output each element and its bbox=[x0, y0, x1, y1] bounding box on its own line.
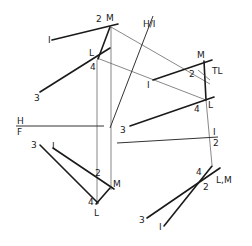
label-top-1: I bbox=[48, 35, 51, 45]
label-aux-1: I bbox=[147, 80, 150, 90]
label-front-3: 3 bbox=[31, 140, 37, 150]
label-aux-l: L bbox=[208, 100, 213, 110]
top-view bbox=[40, 24, 118, 92]
label-top-l: L bbox=[89, 48, 94, 58]
label-true-length: TL bbox=[211, 66, 223, 76]
label-point-4: 4 bbox=[196, 167, 202, 177]
label-hinge-h-1: H/I bbox=[143, 19, 155, 29]
hinge-line-1-2 bbox=[117, 137, 218, 143]
label-top-4: 4 bbox=[90, 62, 96, 72]
label-aux-3: 3 bbox=[120, 125, 126, 135]
label-hinge-f: F bbox=[17, 127, 22, 137]
label-point-2: 2 bbox=[203, 182, 209, 192]
hinge-line-h-1 bbox=[110, 16, 153, 128]
label-aux-m: M bbox=[197, 50, 205, 60]
descriptive-geometry-diagram: I 2 M L 4 3 H/I H F M 2 I L 4 3 TL I 2 3… bbox=[0, 0, 252, 246]
label-aux-4: 4 bbox=[194, 104, 200, 114]
label-top-2: 2 bbox=[96, 14, 102, 24]
label-hinge-h: H bbox=[17, 116, 24, 126]
label-front-1: I bbox=[52, 141, 55, 151]
label-top-m: M bbox=[106, 13, 114, 23]
label-front-m: M bbox=[113, 179, 121, 189]
label-front-l: L bbox=[94, 208, 99, 218]
label-aux-2: 2 bbox=[189, 69, 195, 79]
label-point-3: 3 bbox=[139, 215, 145, 225]
front-view bbox=[40, 145, 114, 204]
point-view bbox=[147, 166, 220, 226]
label-hinge-2: 2 bbox=[213, 138, 219, 148]
label-front-2: 2 bbox=[95, 168, 101, 178]
label-front-4: 4 bbox=[88, 197, 94, 207]
label-point-1: I bbox=[159, 222, 162, 232]
label-top-3: 3 bbox=[34, 93, 40, 103]
label-hinge-1: I bbox=[213, 127, 216, 137]
auxiliary-view bbox=[130, 60, 214, 126]
label-point-lm: L,M bbox=[216, 175, 232, 185]
